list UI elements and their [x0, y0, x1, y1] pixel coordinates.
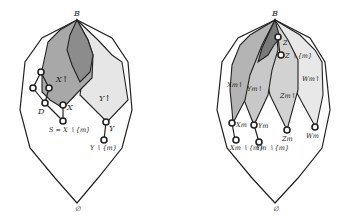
left-node-d — [42, 100, 48, 106]
left-y-label: Y — [109, 124, 115, 133]
left-top-label: B — [73, 9, 80, 18]
left-node-y-minus — [101, 137, 107, 143]
right-node-wm — [312, 124, 318, 130]
right-node-ym — [251, 122, 257, 128]
left-node-mid-right — [46, 85, 52, 91]
left-x-upset-label: X↑ — [55, 75, 68, 84]
left-node-x — [60, 102, 66, 108]
right-wm-label: Wm — [306, 132, 319, 140]
right-zm-label: Zm — [281, 135, 293, 143]
right-ym-label: Ym — [258, 122, 268, 130]
left-bottom-label: ∅ — [75, 205, 81, 213]
right-node-zm — [284, 127, 290, 133]
left-d-label: D — [37, 107, 45, 116]
right-node-z — [275, 34, 281, 40]
right-lattice-diagram: B Z Z ∖ {m} Xm↑ Ym↑ Zm↑ Wm↑ Xm Ym Zm Wm … — [217, 9, 330, 213]
left-node-mid-left — [30, 85, 36, 91]
right-ym-minus-label: Ym ∖ {m} — [256, 144, 289, 152]
left-y-upset-label: Y↑ — [99, 94, 111, 103]
right-node-xm — [229, 120, 235, 126]
right-xm-upset-label: Xm↑ — [226, 81, 243, 89]
left-node-top — [38, 69, 44, 75]
right-z-minus-label: Z ∖ {m} — [284, 52, 312, 60]
right-z-label: Z — [282, 39, 288, 47]
right-zm-upset-label: Zm↑ — [279, 92, 296, 100]
right-node-xm-minus — [233, 137, 239, 143]
left-lattice-diagram: B X↑ Y↑ D X S = X ∖ {m} Y Y ∖ {m} ∅ — [20, 9, 132, 213]
left-y-minus-label: Y ∖ {m} — [90, 144, 117, 152]
right-top-label: B — [271, 9, 278, 18]
left-node-s — [60, 118, 66, 124]
right-node-z-minus — [278, 52, 284, 58]
right-bottom-label: ∅ — [273, 205, 279, 213]
diagram-canvas: B X↑ Y↑ D X S = X ∖ {m} Y Y ∖ {m} ∅ — [0, 0, 346, 222]
right-xm-label: Xm — [235, 121, 247, 129]
right-wm-upset-label: Wm↑ — [302, 75, 320, 83]
right-ym-upset-label: Ym↑ — [247, 85, 263, 93]
left-x-label: X — [66, 103, 73, 112]
left-s-label: S = X ∖ {m} — [49, 126, 90, 134]
